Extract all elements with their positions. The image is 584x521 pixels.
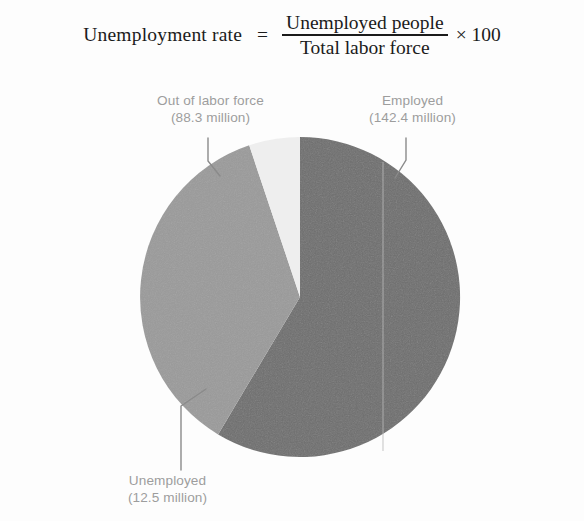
unemployment-rate-formula: Unemployment rate = Unemployed people To… (0, 4, 584, 66)
slice-label-out-of-labor-force: Out of labor force (88.3 million) (118, 92, 303, 126)
slice-label-unemployed-value: (12.5 million) (80, 489, 255, 506)
formula-fraction: Unemployed people Total labor force (282, 12, 448, 58)
pie-chart: Out of labor force (88.3 million) Employ… (0, 66, 584, 521)
slice-label-employed-name: Employed (382, 93, 443, 108)
formula-numerator: Unemployed people (282, 12, 448, 34)
slice-label-out-of-labor-force-name: Out of labor force (157, 93, 264, 108)
slice-label-unemployed-name: Unemployed (129, 473, 206, 488)
formula-denominator: Total labor force (296, 36, 434, 58)
slice-label-employed-value: (142.4 million) (330, 109, 495, 126)
slice-label-employed: Employed (142.4 million) (330, 92, 495, 126)
formula-left-hand-side: Unemployment rate (83, 24, 242, 46)
figure-root: Unemployment rate = Unemployed people To… (0, 0, 584, 521)
slice-label-unemployed: Unemployed (12.5 million) (80, 472, 255, 506)
slice-label-out-of-labor-force-value: (88.3 million) (118, 109, 303, 126)
formula-multiplier: × 100 (456, 24, 501, 46)
pie-chart-svg (0, 66, 584, 521)
formula-equals-sign: = (257, 24, 268, 46)
